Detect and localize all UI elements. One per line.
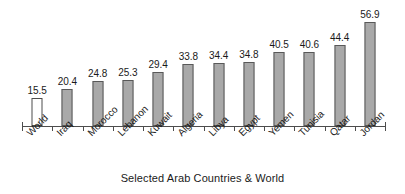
x-axis-title: Selected Arab Countries & World [0,172,405,184]
x-axis-tick [83,127,84,131]
bar-value-label: 24.8 [88,68,107,79]
bar-group: 34.4 [204,8,234,126]
bar-value-label: 34.4 [209,50,228,61]
x-axis-tick [204,127,205,131]
x-axis-tick [52,127,53,131]
bar-value-label: 44.4 [330,32,349,43]
x-axis-tick [355,127,356,131]
bar-value-label: 15.5 [28,85,47,96]
x-axis-tick [385,127,386,131]
bar-group: 56.9 [355,8,385,126]
bar-group: 20.4 [52,8,82,126]
x-axis-tick [234,127,235,131]
bar-chart-figure: 15.520.424.825.329.433.834.434.840.540.6… [0,0,405,194]
x-axis-tick [143,127,144,131]
bar-value-label: 40.6 [300,39,319,50]
bar-group: 40.5 [264,8,294,126]
bar-value-label: 40.5 [270,39,289,50]
bar-group: 40.6 [294,8,324,126]
bar-group: 44.4 [325,8,355,126]
x-axis-tick [173,127,174,131]
bar-value-label: 33.8 [179,51,198,62]
bar-group: 15.5 [22,8,52,126]
x-axis-tick [325,127,326,131]
bar-value-label: 56.9 [360,9,379,20]
x-axis-tick [264,127,265,131]
x-axis-tick [294,127,295,131]
bar-value-label: 29.4 [149,59,168,70]
plot-area: 15.520.424.825.329.433.834.434.840.540.6… [22,8,385,126]
bar-value-label: 20.4 [58,76,77,87]
bar-value-label: 25.3 [118,67,137,78]
bar-value-label: 34.8 [239,49,258,60]
bar-group: 33.8 [173,8,203,126]
bar-jordan[interactable] [364,22,375,126]
x-axis-tick [22,127,23,131]
x-axis-tick [113,127,114,131]
bar-group: 34.8 [234,8,264,126]
